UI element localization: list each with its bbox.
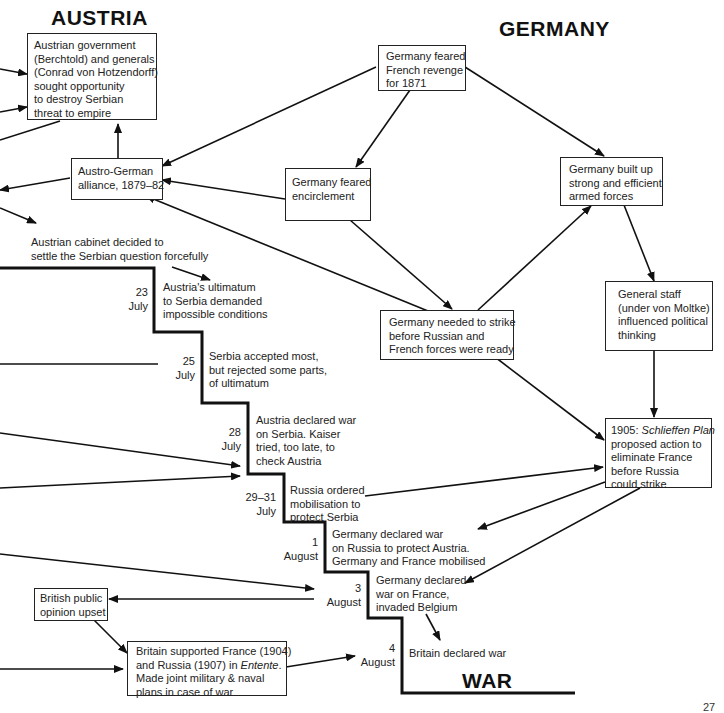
- timeline-date-28-july: 28 July: [193, 426, 241, 453]
- event-text: impossible conditions: [163, 308, 268, 322]
- node-text: .: [278, 659, 281, 671]
- node-austro-german-alliance: Austro-German alliance, 1879–82: [71, 158, 163, 200]
- timeline-event-germany-war-france: Germany declared war on France, invaded …: [376, 574, 467, 615]
- date-day: 25: [147, 355, 195, 369]
- node-text: Austrian government: [34, 39, 150, 53]
- date-day: 1: [262, 536, 318, 550]
- event-text: mobilisation to: [290, 498, 365, 512]
- date-month: August: [262, 550, 318, 564]
- timeline-event-germany-war-russia: Germany declared war on Russia to protec…: [332, 528, 485, 569]
- timeline-event-cabinet: Austrian cabinet decided to settle the S…: [31, 236, 208, 263]
- event-text: Austria's ultimatum: [163, 281, 268, 295]
- node-general-staff: General staff (under von Moltke) influen…: [605, 281, 713, 351]
- node-text: plans in case of war: [136, 686, 278, 700]
- node-text: could strike: [611, 478, 706, 492]
- node-text: Britain supported France (1904): [136, 645, 278, 659]
- node-text: strong and efficient: [569, 177, 654, 191]
- event-text: Germany declared: [376, 574, 467, 588]
- node-text: proposed action to: [611, 438, 706, 452]
- timeline-event-russia-mobilised: Russia ordered mobilisation to protect S…: [290, 484, 365, 525]
- node-text: thinking: [618, 329, 700, 343]
- node-text: French revenge: [386, 64, 458, 78]
- timeline-date-25-july: 25 July: [147, 355, 195, 382]
- node-britain-entente: Britain supported France (1904) and Russ…: [127, 641, 287, 696]
- event-text: check Austria: [256, 455, 356, 469]
- date-day: 29–31: [228, 491, 276, 505]
- node-text: and Russia (1907) in: [136, 659, 241, 671]
- event-text: invaded Belgium: [376, 601, 467, 615]
- node-british-public-opinion: British public opinion upset: [34, 588, 108, 621]
- page-number: 27: [703, 701, 715, 713]
- event-text: war on France,: [376, 588, 467, 602]
- date-month: July: [147, 369, 195, 383]
- entente-word: Entente: [241, 659, 279, 671]
- heading-germany: GERMANY: [499, 17, 610, 41]
- node-germany-feared-encirclement: Germany feared encirclement: [285, 168, 371, 221]
- node-text: before Russia: [611, 465, 706, 479]
- node-text: Germany feared: [292, 176, 364, 190]
- schlieffen-title: 1905: Schlieffen Plan: [611, 424, 706, 438]
- node-germany-feared-revenge: Germany feared French revenge for 1871: [378, 45, 466, 91]
- date-day: 3: [305, 582, 361, 596]
- node-text: (Berchtold) and generals: [34, 53, 150, 67]
- node-text: encirclement: [292, 190, 364, 204]
- node-germany-needed-strike: Germany needed to strike before Russian …: [380, 310, 514, 360]
- node-text: British public: [40, 592, 102, 606]
- heading-austria: AUSTRIA: [51, 6, 148, 30]
- event-text: protect Serbia: [290, 511, 365, 525]
- timeline-event-austria-declared-war: Austria declared war on Serbia. Kaiser t…: [256, 414, 356, 468]
- event-text: of ultimatum: [209, 377, 327, 391]
- node-text: Austro-German: [78, 165, 156, 179]
- node-text: Germany needed to strike: [389, 316, 505, 330]
- node-text: eliminate France: [611, 451, 706, 465]
- timeline-date-4-august: 4 August: [339, 642, 395, 669]
- timeline-date-1-august: 1 August: [262, 536, 318, 563]
- node-text: (Conrad von Hotzendorff): [34, 66, 150, 80]
- event-text: Serbia accepted most,: [209, 350, 327, 364]
- node-text: Germany feared: [386, 50, 458, 64]
- event-text: settle the Serbian question forcefully: [31, 250, 208, 264]
- date-day: 23: [100, 286, 148, 300]
- node-text: influenced political: [618, 315, 700, 329]
- node-austrian-government: Austrian government (Berchtold) and gene…: [27, 33, 157, 120]
- timeline-date-3-august: 3 August: [305, 582, 361, 609]
- node-schlieffen-plan: 1905: Schlieffen Plan proposed action to…: [605, 418, 712, 488]
- entente-line: and Russia (1907) in Entente.: [136, 659, 278, 673]
- event-text: Britain declared war: [409, 647, 506, 661]
- node-text: (under von Moltke): [618, 302, 700, 316]
- date-day: 4: [339, 642, 395, 656]
- timeline-date-29-31-july: 29–31 July: [228, 491, 276, 518]
- timeline-date-23-july: 23 July: [100, 286, 148, 313]
- node-text: alliance, 1879–82: [78, 179, 156, 193]
- date-month: August: [305, 596, 361, 610]
- timeline-event-serbia-accepted: Serbia accepted most, but rejected some …: [209, 350, 327, 391]
- schlieffen-plan-name: Schlieffen Plan: [642, 424, 715, 436]
- timeline-event-ultimatum: Austria's ultimatum to Serbia demanded i…: [163, 281, 268, 322]
- event-text: Germany and France mobilised: [332, 555, 485, 569]
- event-text: on Russia to protect Austria.: [332, 542, 485, 556]
- timeline-event-britain-declared-war: Britain declared war: [409, 647, 506, 661]
- node-text: Germany built up: [569, 163, 654, 177]
- event-text: on Serbia. Kaiser: [256, 428, 356, 442]
- node-text: General staff: [618, 288, 700, 302]
- event-text: Germany declared war: [332, 528, 485, 542]
- event-text: Russia ordered: [290, 484, 365, 498]
- node-text: threat to empire: [34, 107, 150, 121]
- event-text: Austrian cabinet decided to: [31, 236, 208, 250]
- heading-war: WAR: [462, 669, 513, 693]
- node-text: armed forces: [569, 190, 654, 204]
- node-text: before Russian and: [389, 330, 505, 344]
- event-text: tried, too late, to: [256, 441, 356, 455]
- node-text: opinion upset: [40, 606, 102, 620]
- node-germany-built-forces: Germany built up strong and efficient ar…: [560, 157, 663, 206]
- node-text: sought opportunity: [34, 80, 150, 94]
- date-month: July: [193, 440, 241, 454]
- event-text: to Serbia demanded: [163, 295, 268, 309]
- node-text: to destroy Serbian: [34, 93, 150, 107]
- date-month: July: [100, 300, 148, 314]
- event-text: Austria declared war: [256, 414, 356, 428]
- event-text: but rejected some parts,: [209, 364, 327, 378]
- schlieffen-year: 1905:: [611, 424, 642, 436]
- node-text: French forces were ready: [389, 343, 505, 357]
